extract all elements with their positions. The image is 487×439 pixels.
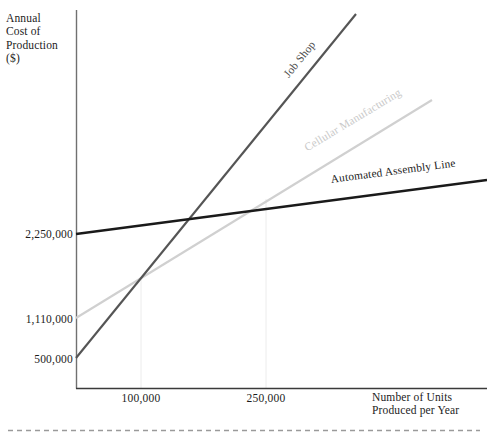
x-axis-title: Number of Units Produced per Year bbox=[372, 391, 484, 418]
series-line-cellular-manufacturing bbox=[76, 100, 432, 318]
x-tick-label-100000: 100,000 bbox=[101, 392, 181, 404]
y-tick-label-1110000: 1,110,000 bbox=[26, 313, 73, 325]
y-axis-title: Annual Cost of Production ($) bbox=[6, 12, 72, 66]
series-line-automated-assembly-line bbox=[76, 180, 487, 234]
x-tick-label-250000: 250,000 bbox=[226, 392, 306, 404]
plot-area bbox=[0, 0, 487, 439]
cost-comparison-chart: Annual Cost of Production ($) Number of … bbox=[0, 0, 487, 439]
series-line-job-shop bbox=[76, 14, 356, 358]
y-tick-label-500000: 500,000 bbox=[34, 353, 73, 365]
y-tick-label-2250000: 2,250,000 bbox=[25, 228, 73, 240]
